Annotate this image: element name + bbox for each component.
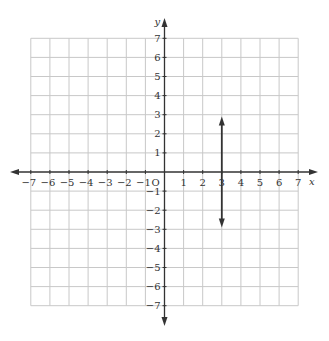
y-axis-up-arrow-icon [162, 18, 168, 27]
x-axis-left-arrow-icon [10, 169, 19, 175]
x-tick-label: 6 [276, 177, 282, 188]
y-tick-label: 5 [154, 71, 160, 82]
x-tick-label: 5 [257, 177, 263, 188]
y-tick-label: 6 [154, 52, 160, 63]
y-tick-label: −6 [146, 281, 161, 292]
x-axis-label: x [309, 176, 315, 187]
origin-label: O [151, 177, 159, 188]
x-tick-label: −7 [21, 177, 36, 188]
x-tick-label: 7 [295, 177, 301, 188]
x-tick-label: −6 [41, 177, 56, 188]
x-tick-labels: −7−6−5−4−3−2−11234567 [21, 177, 301, 188]
y-tick-label: 1 [154, 147, 160, 158]
axes [10, 18, 318, 326]
y-tick-label: −5 [146, 262, 161, 273]
x-tick-label: 2 [200, 177, 206, 188]
x-tick-label: −4 [79, 177, 94, 188]
x-tick-label: 4 [238, 177, 244, 188]
y-tick-label: −2 [146, 205, 161, 216]
y-tick-label: −7 [146, 300, 161, 311]
y-tick-label: 7 [154, 33, 160, 44]
x-tick-label: 1 [180, 177, 186, 188]
y-tick-label: 3 [154, 109, 160, 120]
y-tick-label: 4 [154, 90, 160, 101]
x-axis-right-arrow-icon [309, 169, 318, 175]
segment-bottom-arrow-icon [219, 218, 225, 227]
coordinate-plane: −7−6−5−4−3−2−11234567 7654321−1−2−3−4−5−… [0, 0, 329, 341]
y-axis-down-arrow-icon [162, 317, 168, 326]
y-tick-label: −3 [146, 224, 161, 235]
x-tick-label: −5 [60, 177, 75, 188]
x-tick-label: −3 [98, 177, 113, 188]
y-tick-label: 2 [154, 128, 160, 139]
y-axis-label: y [154, 16, 161, 27]
x-tick-label: −2 [117, 177, 132, 188]
segment-top-arrow-icon [219, 117, 225, 126]
y-tick-label: −4 [146, 243, 161, 254]
